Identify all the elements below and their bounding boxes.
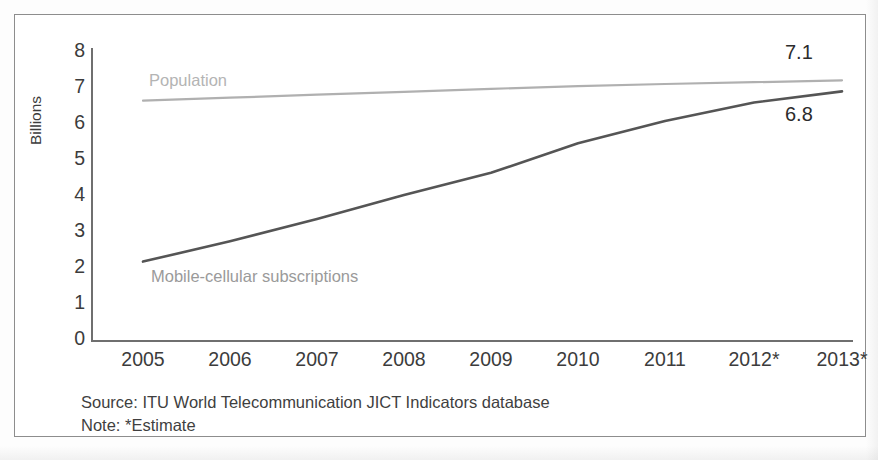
mobile-series-line [143, 91, 842, 261]
y-tick-label: 5 [55, 149, 85, 169]
population-series-line [143, 80, 842, 100]
scan-edge-shading-right [866, 0, 878, 460]
source-note: Source: ITU World Telecommunication JICT… [81, 391, 851, 414]
y-tick-label: 2 [55, 257, 85, 277]
figure-frame: Billions 8 7 6 5 4 3 2 1 0 Population Mo… [14, 14, 866, 437]
y-axis-tick-labels: 8 7 6 5 4 3 2 1 0 [55, 15, 85, 355]
y-tick-label: 8 [55, 41, 85, 61]
footnotes: Source: ITU World Telecommunication JICT… [81, 391, 851, 437]
figure-root: Billions 8 7 6 5 4 3 2 1 0 Population Mo… [0, 0, 878, 460]
estimate-note: Note: *Estimate [81, 414, 851, 437]
y-tick-label: 7 [55, 77, 85, 97]
x-axis-tick-labels: 2005 2006 2007 2008 2009 2010 2011 2012*… [93, 348, 853, 376]
chart-svg [93, 47, 853, 343]
x-tick-label: 2007 [295, 348, 338, 370]
scan-edge-shading-bottom [0, 446, 878, 460]
y-tick-label: 1 [55, 293, 85, 313]
x-tick-label: 2012* [729, 348, 780, 370]
y-tick-label: 6 [55, 113, 85, 133]
x-tick-label: 2006 [208, 348, 251, 370]
x-tick-label: 2010 [556, 348, 599, 370]
y-tick-label: 4 [55, 185, 85, 205]
x-tick-label: 2009 [469, 348, 512, 370]
series-label-mobile: Mobile-cellular subscriptions [151, 267, 358, 286]
y-tick-label: 3 [55, 221, 85, 241]
series-label-population: Population [149, 71, 227, 90]
x-tick-label: 2008 [382, 348, 425, 370]
mobile-end-value: 6.8 [785, 103, 813, 126]
population-end-value: 7.1 [785, 41, 813, 64]
plot-area [93, 47, 853, 343]
y-tick-label: 0 [55, 329, 85, 349]
x-tick-label: 2005 [121, 348, 164, 370]
x-tick-label: 2013* [817, 348, 868, 370]
x-tick-label: 2011 [644, 348, 686, 370]
y-axis-title: Billions [27, 96, 45, 145]
